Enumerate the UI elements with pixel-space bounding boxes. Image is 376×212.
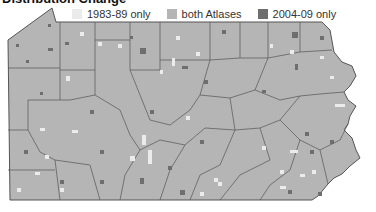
legend-item-both-atlases: both Atlases bbox=[167, 8, 242, 20]
legend-item-1983-89-only: 1983-89 only bbox=[72, 8, 151, 20]
legend-label: 2004-09 only bbox=[273, 8, 337, 20]
legend-label: both Atlases bbox=[182, 8, 242, 20]
state-outline bbox=[8, 8, 360, 200]
legend-swatch-dark bbox=[258, 9, 268, 19]
pennsylvania-map bbox=[0, 0, 376, 212]
legend-swatch-light bbox=[72, 9, 82, 19]
legend-item-2004-09-only: 2004-09 only bbox=[258, 8, 337, 20]
legend-swatch-medium bbox=[167, 9, 177, 19]
legend-label: 1983-89 only bbox=[87, 8, 151, 20]
map-legend: 1983-89 only both Atlases 2004-09 only bbox=[68, 8, 340, 20]
